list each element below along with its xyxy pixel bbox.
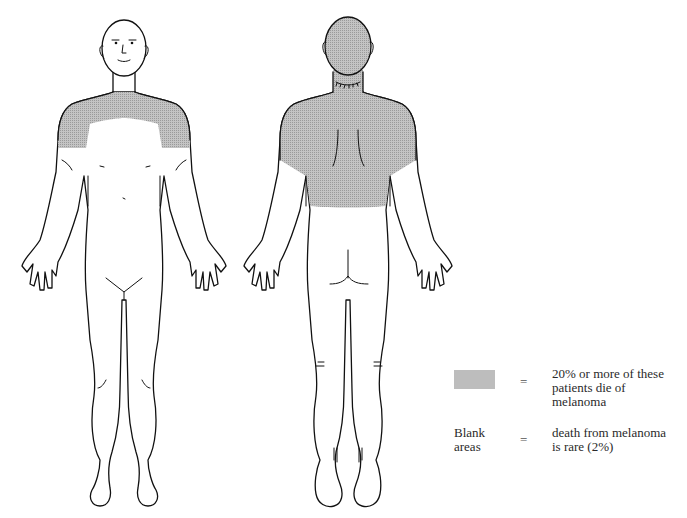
front-head bbox=[102, 20, 146, 76]
front-figure bbox=[22, 20, 226, 506]
back-head bbox=[325, 17, 371, 75]
legend-equals-2: = bbox=[520, 432, 527, 448]
legend-blank-description: death from melanoma is rare (2%) bbox=[552, 426, 666, 454]
back-figure bbox=[244, 17, 452, 507]
legend-blank-label: Blank areas bbox=[454, 426, 485, 454]
legend-equals-1: = bbox=[520, 374, 527, 390]
legend-shaded-description: 20% or more of these patients die of mel… bbox=[552, 367, 664, 409]
legend-shaded-swatch bbox=[454, 370, 495, 389]
